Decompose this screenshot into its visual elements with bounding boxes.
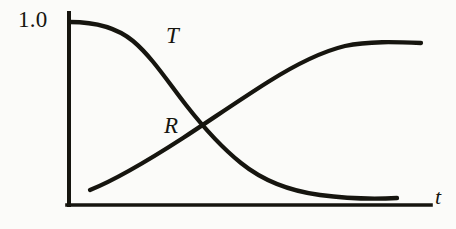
y-axis-max-tick-label: 1.0 [18,8,47,31]
curve-transmittance [70,22,397,199]
curve-group [70,22,421,199]
x-axis-name-label: t [435,186,441,208]
transmittance-reflectance-plot: 1.0 T R t [0,0,456,229]
curve-reflectance [90,42,421,190]
curve-label-transmittance: T [166,24,179,47]
curve-label-reflectance: R [164,114,178,137]
plot-canvas [0,0,456,229]
